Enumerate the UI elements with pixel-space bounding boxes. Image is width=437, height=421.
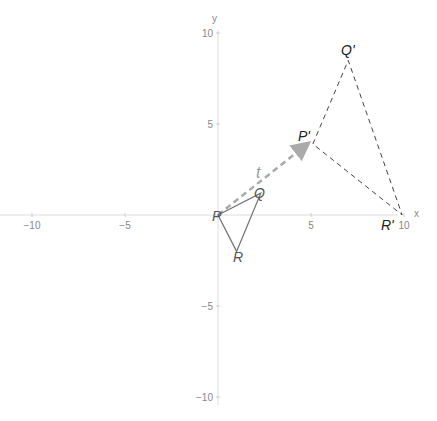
label-P: P (212, 208, 222, 224)
label-R-prime: R' (381, 217, 395, 233)
y-axis-label: y (212, 13, 217, 24)
y-tick-label: −5 (202, 301, 214, 312)
label-R: R (233, 249, 243, 265)
y-tick-label: −10 (196, 392, 213, 403)
label-Q: Q (254, 185, 265, 201)
original-triangle (218, 193, 261, 251)
x-tick-label: −5 (119, 220, 131, 231)
coordinate-plane: −10−5510 105−5−10 x y t P Q R P' Q' R' (0, 0, 437, 421)
label-P-prime: P' (298, 128, 311, 144)
vector-label: t (256, 164, 261, 181)
x-tick-label: 5 (308, 220, 314, 231)
translation-vector (218, 144, 307, 215)
image-triangle (313, 60, 402, 215)
label-Q-prime: Q' (341, 42, 356, 58)
x-axis-label: x (414, 208, 419, 219)
y-tick-label: 10 (202, 28, 214, 39)
x-tick-label: −10 (24, 220, 41, 231)
axes: −10−5510 105−5−10 x y (0, 13, 419, 405)
y-tick-label: 5 (207, 119, 213, 130)
x-tick-label: 10 (398, 220, 410, 231)
